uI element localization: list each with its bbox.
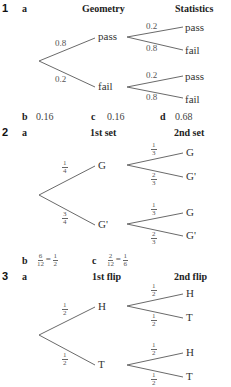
part-label-a: a <box>22 271 27 282</box>
answer-equation: 612 = 12 <box>37 253 58 268</box>
question-number: 1 <box>2 2 8 14</box>
tree-node: pass <box>185 70 204 82</box>
stage-header-2: 2nd flip <box>174 271 207 282</box>
part-label-c: c <box>92 255 96 266</box>
part-label-d: d <box>160 111 166 122</box>
answer-equation: 212 = 16 <box>107 253 128 268</box>
part-label-a: a <box>22 127 27 138</box>
question-number: 3 <box>2 270 8 282</box>
part-label-a: a <box>22 3 27 14</box>
tree-node: G <box>186 206 194 218</box>
part-label-b: b <box>22 111 28 122</box>
branch-prob-fraction: 12 <box>62 302 68 317</box>
branch-prob-fraction: 14 <box>62 160 68 175</box>
question-number: 2 <box>2 126 8 138</box>
tree-branch-lines <box>0 0 231 387</box>
tree-node: fail <box>98 80 113 92</box>
branch-prob-fraction: 13 <box>151 142 157 157</box>
tree-node: T <box>98 358 105 370</box>
branch-prob-fraction: 12 <box>151 283 157 298</box>
answer-value: 0.68 <box>175 111 193 122</box>
part-label-b: b <box>22 255 28 266</box>
branch-prob: 0.8 <box>146 43 157 53</box>
branch-prob-fraction: 12 <box>151 313 157 328</box>
tree-node: G <box>98 159 106 171</box>
tree-node: H <box>98 300 106 312</box>
tree-node: fail <box>185 93 200 105</box>
tree-node: fail <box>185 44 200 56</box>
tree-node: T <box>186 370 193 382</box>
tree-node: H <box>186 346 194 358</box>
stage-header-1: 1st flip <box>92 271 121 282</box>
tree-node: T <box>186 311 193 323</box>
answer-value: 0.16 <box>107 111 125 122</box>
branch-prob: 0.8 <box>55 38 66 48</box>
branch-prob-fraction: 23 <box>151 231 157 246</box>
branch-prob-fraction: 13 <box>151 202 157 217</box>
branch-prob-fraction: 23 <box>151 172 157 187</box>
branch-prob: 0.8 <box>146 92 157 102</box>
branch-prob-fraction: 12 <box>151 342 157 357</box>
tree-node: pass <box>98 30 117 42</box>
branch-prob: 0.2 <box>55 74 66 84</box>
tree-node: G' <box>186 170 196 182</box>
tree-node: G' <box>98 218 108 230</box>
branch-prob: 0.2 <box>146 70 157 80</box>
stage-header-2: Statistics <box>175 3 213 14</box>
tree-node: H <box>186 287 194 299</box>
branch-prob: 0.2 <box>146 21 157 31</box>
tree-node: G <box>186 146 194 158</box>
branch-prob-fraction: 12 <box>62 352 68 367</box>
stage-header-1: Geometry <box>82 3 125 14</box>
stage-header-2: 2nd set <box>174 127 204 138</box>
tree-node: pass <box>185 21 204 33</box>
answer-value: 0.16 <box>36 111 54 122</box>
stage-header-1: 1st set <box>90 127 116 138</box>
part-label-c: c <box>91 111 95 122</box>
tree-node: G' <box>186 229 196 241</box>
branch-prob-fraction: 34 <box>62 211 68 226</box>
branch-prob-fraction: 12 <box>151 372 157 387</box>
